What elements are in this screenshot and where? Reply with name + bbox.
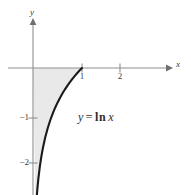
x-axis-label: x (176, 60, 180, 69)
equation-equals-sign: = (84, 110, 95, 124)
y-axis-label: y (30, 8, 34, 17)
equation-annotation: y=lnx (78, 111, 114, 123)
x-tick-label-1: 1 (77, 72, 87, 81)
equation-ln-function: ln (95, 110, 108, 124)
figure-graph-ln-x: y x 1 2 −1 −2 y=lnx (0, 0, 191, 195)
y-axis-arrowhead (30, 18, 37, 25)
x-axis-arrowhead (166, 65, 173, 72)
shaded-region (33, 68, 82, 195)
equation-lhs: y (78, 110, 84, 124)
y-tick-label-minus-2: −2 (13, 158, 29, 167)
y-tick-label-minus-1: −1 (13, 113, 29, 122)
x-tick-label-2: 2 (115, 72, 125, 81)
equation-variable: x (108, 110, 114, 124)
